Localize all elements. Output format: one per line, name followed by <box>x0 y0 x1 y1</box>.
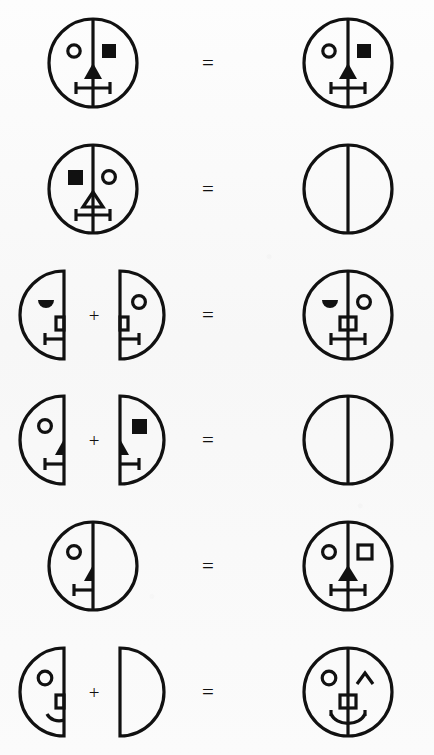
half-square-nose-icon <box>56 317 64 330</box>
equation-row-1: = <box>0 0 434 126</box>
plus-operator: + <box>84 431 104 450</box>
equation-row-3: + = <box>0 252 434 378</box>
half-face-left-operand <box>18 646 68 738</box>
right-half-outline <box>120 396 164 484</box>
open-circle-eye-icon <box>322 671 336 685</box>
equals-operator: = <box>197 304 219 325</box>
half-face-right-operand <box>116 394 166 486</box>
half-face-left-operand <box>18 269 68 361</box>
open-circle-eye-icon <box>68 45 80 57</box>
equation-row-2: = <box>0 126 434 252</box>
face-result <box>302 520 394 612</box>
equals-operator: = <box>197 52 219 73</box>
filled-square-eye-icon <box>102 44 116 58</box>
open-circle-eye-icon <box>68 546 81 559</box>
plus-operator: + <box>84 305 104 324</box>
filled-triangle-nose-icon <box>338 565 358 581</box>
open-circle-eye-icon <box>103 170 116 183</box>
equation-row-4: + = <box>0 377 434 503</box>
face-result <box>302 646 394 738</box>
equals-operator: = <box>197 682 219 703</box>
half-face-left-operand <box>18 394 68 486</box>
filled-square-eye-icon <box>68 170 83 185</box>
half-face-right-operand <box>116 269 166 361</box>
equation-row-5: = <box>0 503 434 629</box>
left-half-outline <box>20 271 64 359</box>
open-circle-eye-icon <box>38 671 52 685</box>
hollow-square-eye-icon <box>358 545 372 559</box>
empty-face-result <box>302 143 394 235</box>
filled-square-eye-icon <box>357 44 371 58</box>
equals-operator: = <box>197 430 219 451</box>
face-left-operand <box>47 17 139 109</box>
left-half-outline <box>20 648 64 736</box>
open-circle-eye-icon <box>323 546 336 559</box>
filled-semicircle-eye-icon <box>38 300 54 308</box>
half-square-nose-icon <box>120 317 128 330</box>
right-half-outline <box>120 271 164 359</box>
face-left-operand <box>47 520 139 612</box>
right-half-outline <box>120 648 164 736</box>
open-circle-eye-icon <box>358 295 371 308</box>
open-circle-eye-icon <box>133 295 146 308</box>
face-left-operand <box>47 143 139 235</box>
equation-row-6: + = <box>0 629 434 755</box>
filled-triangle-nose-icon <box>84 63 102 79</box>
face-result <box>302 269 394 361</box>
half-triangle-nose-icon <box>84 565 93 581</box>
filled-semicircle-eye-icon <box>322 300 338 308</box>
plus-operator: + <box>84 683 104 702</box>
equals-operator: = <box>197 178 219 199</box>
left-half-outline <box>20 396 64 484</box>
equals-operator: = <box>197 556 219 577</box>
half-smile-curve <box>47 714 64 721</box>
equation-rows: = <box>0 0 434 755</box>
open-circle-eye-icon <box>39 420 52 433</box>
chevron-eye-icon <box>357 673 373 684</box>
filled-square-eye-icon <box>132 419 147 434</box>
empty-face-result <box>302 394 394 486</box>
filled-triangle-nose-icon <box>339 63 357 79</box>
open-circle-eye-icon <box>323 45 335 57</box>
face-result <box>302 17 394 109</box>
half-square-nose-icon <box>56 695 64 708</box>
empty-half-right-operand <box>116 646 166 738</box>
